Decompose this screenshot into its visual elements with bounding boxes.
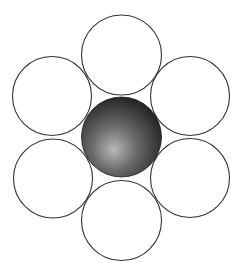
diagram-canvas xyxy=(0,0,245,275)
hexagonal-packing-diagram xyxy=(0,0,245,275)
outer-circle-upper-left xyxy=(13,57,92,136)
outer-circle-bottom xyxy=(82,181,162,261)
outer-circle-lower-right xyxy=(151,139,230,218)
outer-circle-upper-right xyxy=(151,57,230,136)
outer-circle-lower-left xyxy=(14,139,93,218)
outer-circle-top xyxy=(82,15,162,95)
center-sphere xyxy=(82,97,162,177)
